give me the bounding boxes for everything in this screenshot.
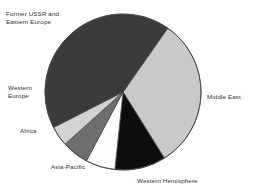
pie-label-western-europe: Western Europe (8, 84, 52, 100)
pie-chart: Former USSR and Eastern Europe Western E… (0, 0, 253, 195)
pie-label-asia-pacific: Asia-Pacific (51, 163, 101, 171)
pie-label-middle-east: Middle East (207, 93, 253, 101)
pie-label-africa: Africa (20, 127, 60, 135)
pie-label-western-hemisphere: Western Hemisphere (137, 177, 217, 185)
pie-label-former-ussr: Former USSR and Eastern Europe (6, 10, 80, 26)
